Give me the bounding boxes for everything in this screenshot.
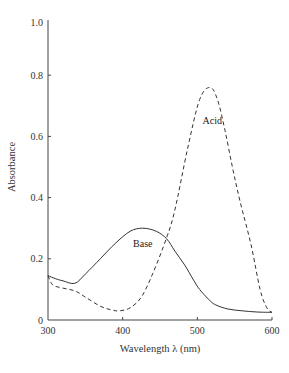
- axes: 00.20.40.60.81.0300400500600: [31, 17, 280, 337]
- x-tick-label: 500: [190, 325, 205, 336]
- x-axis-title: Wavelength λ (nm): [120, 343, 201, 355]
- y-tick-label: 0.4: [31, 192, 44, 203]
- x-tick-label: 300: [41, 325, 56, 336]
- y-tick-label: 0.8: [31, 70, 44, 81]
- y-tick-label: 0.6: [31, 131, 44, 142]
- y-tick-label: 0: [38, 315, 43, 326]
- y-tick-label: 1.0: [31, 17, 44, 28]
- y-tick-label: 0.2: [31, 253, 44, 264]
- curves: [48, 87, 272, 312]
- base-curve: [48, 228, 272, 312]
- acid-curve-label: Acid: [203, 115, 222, 126]
- base-curve-label: Base: [133, 238, 153, 249]
- absorbance-chart: 00.20.40.60.81.0300400500600 BaseAcid Wa…: [0, 0, 289, 373]
- x-tick-label: 600: [265, 325, 280, 336]
- x-tick-label: 400: [115, 325, 130, 336]
- y-axis-title: Absorbance: [6, 142, 17, 192]
